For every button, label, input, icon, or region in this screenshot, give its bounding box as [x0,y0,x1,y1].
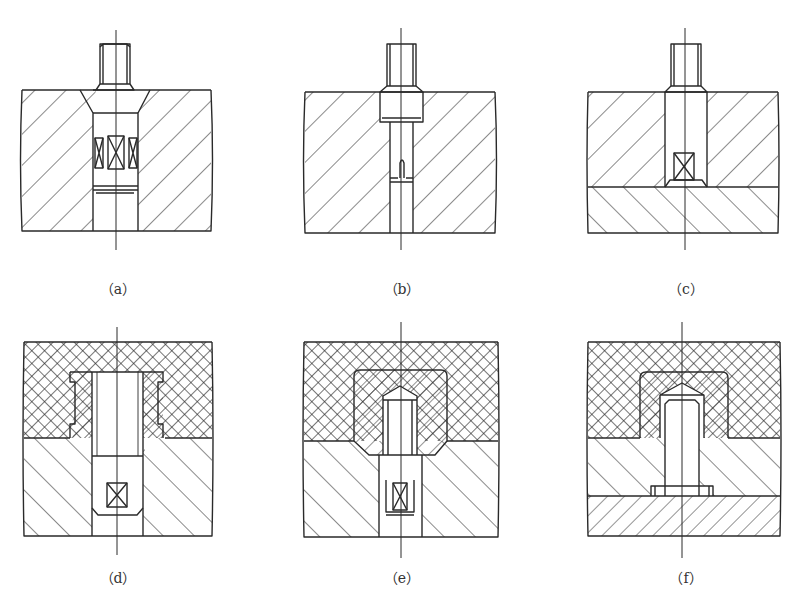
caption-a: （a） [88,278,148,298]
caption-f: （f） [656,567,716,587]
panel-e [303,322,499,558]
engineering-drawing [0,0,798,603]
panel-b [304,28,497,250]
panel-d [23,327,213,555]
panel-f [587,322,781,558]
panel-c [587,28,779,250]
caption-e: （e） [372,567,432,587]
caption-b: （b） [372,278,432,298]
caption-d: （d） [88,567,148,587]
panel-a [21,30,213,250]
caption-c: （c） [656,278,716,298]
